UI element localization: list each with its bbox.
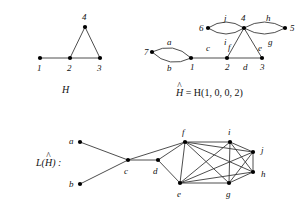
graph-node bbox=[251, 170, 255, 174]
line-graph-node-label-j: j bbox=[261, 146, 264, 155]
line-graph-node-label-h: h bbox=[261, 170, 266, 179]
graph-node bbox=[228, 140, 232, 144]
graph-hhat-edge-label-g: g bbox=[268, 38, 273, 47]
graph-hhat-edge-label-h: h bbox=[266, 14, 271, 23]
graph-hhat-node-label-6: 6 bbox=[199, 24, 204, 33]
graph-hhat-edge-label-b: b bbox=[167, 64, 172, 73]
line-graph-node-label-e: e bbox=[177, 190, 181, 199]
graph-node bbox=[260, 56, 264, 60]
graph-hhat-edge-label-d: d bbox=[243, 63, 248, 72]
graph-hhat-edge-label-j: j bbox=[224, 14, 227, 23]
graph-edge bbox=[185, 142, 253, 172]
graph-edge bbox=[244, 22, 285, 28]
graph-node bbox=[206, 26, 210, 30]
graph-hhat-edge-label-e: e bbox=[258, 44, 262, 53]
graph-hhat-node-label-2: 2 bbox=[225, 63, 230, 72]
graph-node bbox=[189, 56, 193, 60]
graph-node bbox=[183, 140, 187, 144]
graph-edge bbox=[85, 27, 100, 58]
graph-hhat-node-label-5: 5 bbox=[290, 24, 295, 33]
caption-graph-h: H bbox=[62, 85, 69, 95]
graph-hhat-edge-label-a: a bbox=[167, 38, 172, 47]
line-graph-nodes bbox=[78, 140, 255, 186]
graph-node bbox=[150, 50, 154, 54]
graph-edge bbox=[80, 142, 128, 160]
graph-figure bbox=[0, 0, 303, 205]
graph-edge bbox=[158, 160, 180, 183]
graph-hhat-edge-label-f: f bbox=[228, 43, 231, 52]
caption-line-graph: L(H^) : bbox=[36, 158, 61, 168]
line-graph-node-label-d: d bbox=[153, 167, 158, 176]
graph-hhat-edge-label-i: i bbox=[224, 38, 227, 47]
graph-edge bbox=[180, 142, 185, 183]
line-graph-node-label-g: g bbox=[226, 190, 231, 199]
graph-h-node-label-4: 4 bbox=[82, 13, 87, 22]
graph-node bbox=[83, 25, 87, 29]
graph-hhat-node-label-7: 7 bbox=[144, 48, 149, 57]
graph-node bbox=[156, 158, 160, 162]
graph-node bbox=[225, 56, 229, 60]
graph-hhat-node-label-3: 3 bbox=[260, 63, 265, 72]
caption-hhat-rest: = H(1, 0, 0, 2) bbox=[183, 87, 243, 98]
graph-node bbox=[68, 56, 72, 60]
graph-h-edges bbox=[40, 27, 100, 58]
graph-node bbox=[283, 26, 287, 30]
caption-lg-prefix: L( bbox=[36, 157, 45, 168]
caption-lg-hatmark: ^ bbox=[46, 152, 50, 162]
graph-h-node-label-1: 1 bbox=[37, 64, 42, 73]
graph-node bbox=[251, 150, 255, 154]
graph-hhat-node-label-4: 4 bbox=[241, 14, 246, 23]
graph-node bbox=[242, 26, 246, 30]
graph-edge bbox=[80, 160, 128, 184]
graph-edge bbox=[158, 142, 185, 160]
line-graph-node-label-c: c bbox=[124, 167, 128, 176]
graph-node bbox=[126, 158, 130, 162]
caption-graph-hhat: H^ = H(1, 0, 0, 2) bbox=[176, 88, 243, 98]
graph-hhat-node-label-1: 1 bbox=[190, 63, 195, 72]
graph-node bbox=[78, 140, 82, 144]
line-graph-node-label-b: b bbox=[69, 180, 74, 189]
line-graph-node-label-f: f bbox=[182, 128, 185, 137]
graph-node bbox=[98, 56, 102, 60]
graph-node bbox=[38, 56, 42, 60]
line-graph-node-label-i: i bbox=[228, 128, 231, 137]
graph-edge bbox=[244, 28, 285, 34]
graph-edge bbox=[128, 142, 185, 160]
caption-lg-suffix: ) : bbox=[52, 157, 61, 168]
graph-edge bbox=[70, 27, 85, 58]
graph-h-node-label-2: 2 bbox=[67, 64, 72, 73]
graph-h-node-label-3: 3 bbox=[97, 64, 102, 73]
caption-hhat-hatmark: ^ bbox=[177, 82, 181, 92]
graph-node bbox=[78, 182, 82, 186]
line-graph-edges bbox=[80, 142, 253, 184]
graph-edge bbox=[208, 28, 244, 34]
graph-hhat-edge-label-c: c bbox=[206, 44, 210, 53]
graph-node bbox=[227, 181, 231, 185]
line-graph-node-label-a: a bbox=[69, 137, 74, 146]
caption-graph-h-text: H bbox=[62, 84, 69, 95]
graph-node bbox=[178, 181, 182, 185]
